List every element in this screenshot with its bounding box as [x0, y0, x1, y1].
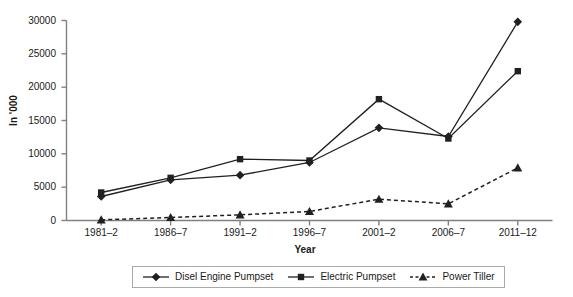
series-line	[101, 22, 518, 197]
square-marker-icon	[237, 156, 243, 162]
diamond-marker-icon	[513, 18, 522, 27]
x-axis-tick-label: 1991–2	[200, 228, 280, 238]
legend-label: Electric Pumpset	[320, 272, 395, 282]
y-axis-ticks	[62, 21, 67, 221]
legend-entry[interactable]: Electric Pumpset	[287, 271, 395, 283]
x-axis-tick-label: 2006–7	[408, 228, 488, 238]
x-axis-title: Year	[275, 244, 335, 255]
legend-entry[interactable]: Disel Engine Pumpset	[142, 271, 273, 283]
series-line	[101, 71, 518, 192]
legend-swatch	[409, 271, 437, 283]
diamond-marker-icon	[236, 171, 245, 180]
data-series	[97, 163, 523, 223]
diamond-marker-icon	[152, 273, 161, 282]
axis-lines	[67, 21, 553, 221]
square-marker-icon	[167, 175, 173, 181]
x-axis-ticks	[101, 221, 518, 226]
square-marker-icon	[515, 68, 521, 74]
square-marker-icon	[445, 135, 451, 141]
square-marker-icon	[98, 189, 104, 195]
data-series	[97, 18, 522, 201]
diamond-marker-icon	[375, 124, 384, 133]
x-axis-tick-label: 1986–7	[131, 228, 211, 238]
data-series	[98, 68, 521, 196]
chart-legend: Disel Engine PumpsetElectric PumpsetPowe…	[132, 266, 505, 288]
chart-figure: In '000 050001000015000200002500030000 1…	[0, 0, 573, 297]
legend-entry[interactable]: Power Tiller	[409, 271, 494, 283]
legend-label: Disel Engine Pumpset	[175, 272, 273, 282]
legend-swatch	[142, 271, 170, 283]
x-axis-tick-label: 1996–7	[270, 228, 350, 238]
square-marker-icon	[376, 96, 382, 102]
square-marker-icon	[298, 274, 304, 280]
triangle-marker-icon	[513, 163, 522, 171]
x-axis-tick-label: 2001–2	[339, 228, 419, 238]
square-marker-icon	[306, 157, 312, 163]
legend-label: Power Tiller	[442, 272, 494, 282]
triangle-marker-icon	[419, 273, 428, 281]
x-axis-tick-labels: 1981–21986–71991–21996–72001–22006–72011…	[0, 228, 573, 242]
legend-swatch	[287, 271, 315, 283]
x-axis-tick-label: 2011–12	[478, 228, 558, 238]
x-axis-tick-label: 1981–2	[61, 228, 141, 238]
data-series-group	[97, 18, 523, 224]
